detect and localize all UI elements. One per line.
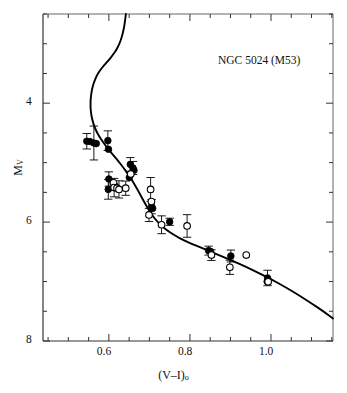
xtick-label: 0.8 — [178, 345, 192, 357]
x-axis-label-main: (V–I) — [158, 368, 185, 382]
ytick-label: 6 — [26, 214, 32, 226]
x-axis-label: (V–I)o — [0, 368, 347, 383]
ytick-label: 8 — [26, 333, 32, 345]
xtick-label: 1.0 — [259, 345, 273, 357]
xtick-label: 0.6 — [97, 345, 111, 357]
x-axis-label-sub: o — [185, 373, 189, 382]
y-axis-label-sub: V — [16, 159, 25, 165]
ytick-label: 4 — [26, 95, 32, 107]
y-axis-label: MV — [11, 148, 26, 188]
chart-figure: 4 6 8 0.6 0.8 1.0 NGC 5024 (M53) (V–I)o … — [0, 0, 347, 393]
cluster-annotation: NGC 5024 (M53) — [218, 54, 300, 66]
data-points — [83, 137, 271, 285]
y-axis-label-main: M — [11, 165, 25, 176]
